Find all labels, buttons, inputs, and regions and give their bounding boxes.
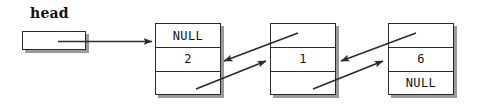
head-label: head [30,5,69,21]
list-node: 6 NULL [388,23,454,95]
list-node: 1 [270,23,336,95]
list-node: NULL 2 [155,23,221,95]
node-prev-cell [389,24,453,47]
head-pointer-box [22,31,86,50]
node-data-cell: 6 [389,47,453,70]
linked-list-diagram: head NULL 2 1 6 NULL [0,0,481,108]
node-data-cell: 1 [271,47,335,70]
node-next-cell [156,71,220,94]
node-next-cell: NULL [389,71,453,94]
node-next-cell [271,71,335,94]
node-prev-cell: NULL [156,24,220,47]
node-prev-cell [271,24,335,47]
node-data-cell: 2 [156,47,220,70]
